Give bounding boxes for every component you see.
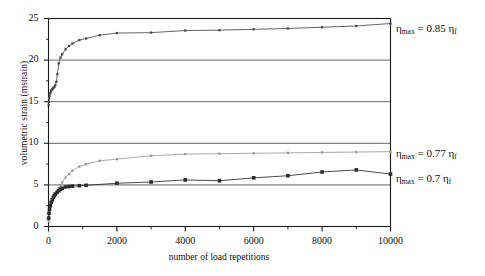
- series-marker: [253, 152, 255, 154]
- series-marker: [355, 151, 357, 153]
- series-marker: [64, 185, 68, 189]
- series-2: [47, 168, 392, 220]
- x-tick-label-4000: 4000: [159, 235, 211, 246]
- series-marker: [355, 168, 359, 172]
- series-marker: [64, 48, 66, 50]
- y-tick-label-25: 25: [13, 12, 39, 23]
- eta-symbol: η: [396, 172, 402, 184]
- series-marker: [320, 170, 324, 174]
- eta-f-symbol: η: [443, 172, 449, 184]
- series-marker: [115, 181, 119, 185]
- series-marker: [54, 84, 56, 86]
- x-tick-label-8000: 8000: [296, 235, 348, 246]
- series-marker: [48, 104, 50, 106]
- series-marker: [48, 97, 50, 99]
- series-marker: [150, 31, 152, 33]
- eta-value: = 0.7: [415, 172, 443, 184]
- series-marker: [218, 179, 222, 183]
- plot-border: [49, 19, 391, 227]
- series-marker: [48, 204, 52, 208]
- series-marker: [55, 81, 57, 83]
- series-marker: [286, 174, 290, 178]
- series-marker: [47, 216, 51, 220]
- series-marker: [61, 53, 63, 55]
- eta-subscript: max: [402, 27, 415, 36]
- plot-frame: [49, 19, 391, 227]
- series-marker: [67, 185, 71, 189]
- series-marker: [184, 29, 186, 31]
- x-tick-label-6000: 6000: [228, 235, 280, 246]
- eta-f-subscript: f: [454, 152, 457, 161]
- series-marker: [321, 26, 323, 28]
- series-marker: [60, 186, 64, 190]
- series-marker: [99, 160, 101, 162]
- series-marker: [78, 165, 80, 167]
- series-line: [49, 170, 391, 218]
- series-marker: [61, 181, 63, 183]
- series-marker: [71, 170, 73, 172]
- series-marker: [116, 158, 118, 160]
- data-series-group: [47, 22, 392, 222]
- series-annotation-eta-07: ηmax = 0.7 ηf: [396, 172, 451, 184]
- series-marker: [58, 62, 60, 64]
- series-marker: [150, 155, 152, 157]
- series-marker: [85, 163, 87, 165]
- chart-figure: 0510152025 0200040006000800010000 volume…: [0, 0, 485, 276]
- eta-value: = 0.77: [415, 147, 449, 159]
- series-marker: [99, 34, 101, 36]
- series-marker: [84, 184, 88, 188]
- series-marker: [71, 42, 73, 44]
- series-marker: [218, 29, 220, 31]
- series-annotation-eta-085: ηmax = 0.85 ηf: [396, 22, 457, 34]
- y-axis-title: volumetric strain (mstrain): [19, 33, 29, 193]
- series-marker: [48, 207, 52, 211]
- series-marker: [71, 184, 75, 188]
- series-marker: [48, 220, 50, 222]
- eta-subscript: max: [402, 177, 415, 186]
- series-marker: [56, 73, 58, 75]
- eta-f-subscript: f: [454, 27, 457, 36]
- series-marker: [355, 25, 357, 27]
- series-marker: [253, 28, 255, 30]
- series-marker: [389, 172, 393, 176]
- series-marker: [48, 101, 50, 103]
- eta-value: = 0.85: [415, 22, 449, 34]
- series-line: [49, 152, 391, 222]
- x-tick-label-2000: 2000: [91, 235, 143, 246]
- series-marker: [78, 39, 80, 41]
- series-marker: [389, 22, 391, 24]
- series-marker: [47, 211, 51, 215]
- x-axis-title: number of load repetitions: [48, 252, 390, 262]
- series-marker: [77, 184, 81, 188]
- y-tick-label-0: 0: [13, 220, 39, 231]
- series-annotation-eta-077: ηmax = 0.77 ηf: [396, 147, 457, 159]
- series-marker: [64, 176, 66, 178]
- series-marker: [184, 153, 186, 155]
- eta-symbol: η: [396, 147, 402, 159]
- x-tick-label-0: 0: [23, 235, 75, 246]
- series-marker: [184, 178, 188, 182]
- series-marker: [287, 152, 289, 154]
- eta-symbol: η: [396, 22, 402, 34]
- series-marker: [116, 32, 118, 34]
- series-marker: [389, 150, 391, 152]
- series-1: [48, 150, 392, 222]
- series-marker: [252, 176, 256, 180]
- eta-subscript: max: [402, 152, 415, 161]
- series-marker: [321, 151, 323, 153]
- series-0: [48, 22, 392, 106]
- series-marker: [287, 27, 289, 29]
- series-marker: [68, 173, 70, 175]
- x-tick-label-10000: 10000: [365, 235, 417, 246]
- eta-f-subscript: f: [449, 177, 452, 186]
- series-marker: [218, 153, 220, 155]
- series-marker: [149, 180, 153, 184]
- series-marker: [59, 56, 61, 58]
- series-marker: [48, 95, 50, 97]
- series-marker: [68, 45, 70, 47]
- axis-ticks-group: [44, 19, 391, 232]
- series-marker: [85, 37, 87, 39]
